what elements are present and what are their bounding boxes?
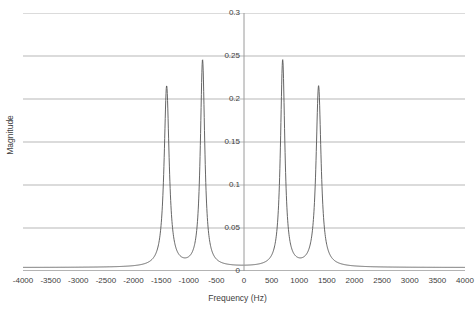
y-tick-label: 0.25 <box>194 52 240 60</box>
y-tick-label: 0.2 <box>194 95 240 103</box>
y-tick-label: 0.1 <box>194 181 240 189</box>
y-tick-label: 0.15 <box>194 138 240 146</box>
y-tick-label: 0.3 <box>194 9 240 17</box>
plot-area <box>23 13 465 271</box>
y-tick-label: 0.05 <box>194 224 240 232</box>
magnitude-spectrum-chart: 00.050.10.150.20.250.3 -4000-3500-3000-2… <box>0 0 475 312</box>
plot-canvas <box>23 13 465 271</box>
x-axis-title: Frequency (Hz) <box>0 293 475 303</box>
y-tick-label: 0 <box>194 267 240 275</box>
y-axis-title: Magnitude <box>5 105 15 165</box>
x-tick-label: 4000 <box>445 277 475 285</box>
